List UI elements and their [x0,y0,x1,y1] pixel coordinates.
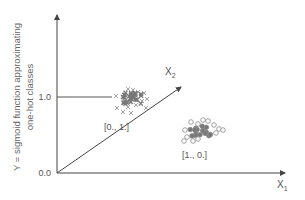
x2-axis-label-sub: 2 [172,72,176,79]
o-marker [196,137,201,142]
o-marker [183,128,188,133]
o-marker [214,131,219,136]
o-marker [212,123,217,128]
x-marker [129,111,133,115]
o-marker [201,118,206,123]
o-marker [196,122,201,127]
o-marker [201,128,206,133]
o-marker [190,134,195,139]
o-marker [198,132,203,137]
cluster-label-x: [0., 1.] [104,122,129,132]
y-tick-1: 1.0 [38,92,51,102]
o-marker-cluster [182,118,226,144]
x-marker [145,97,149,101]
x-marker [121,110,125,114]
x-marker [114,94,118,98]
x-marker [126,105,130,109]
o-marker [206,119,211,124]
o-marker [189,120,194,125]
x-marker [115,106,119,110]
o-marker [182,139,187,144]
y-axis-label-line2: one-hot classes [24,63,35,130]
cluster-label-o: [1., 0.] [182,150,207,160]
x-marker-cluster [114,87,149,115]
o-marker [221,128,226,133]
x1-axis-label: X1 [277,179,288,192]
x-marker [126,87,130,91]
o-marker [188,127,193,132]
x-marker [134,103,138,107]
x1-axis-label-sub: 1 [284,185,288,192]
y-tick-0: 0.0 [38,168,51,178]
diagram-canvas: Y = sigmoid function approximating one-h… [0,0,305,200]
x2-axis-label: X2 [165,66,176,79]
x-marker [144,106,148,110]
o-marker [191,139,196,144]
y-axis-label-line1: Y = sigmoid function approximating [11,23,22,171]
o-marker [192,128,197,133]
o-marker [185,135,190,140]
